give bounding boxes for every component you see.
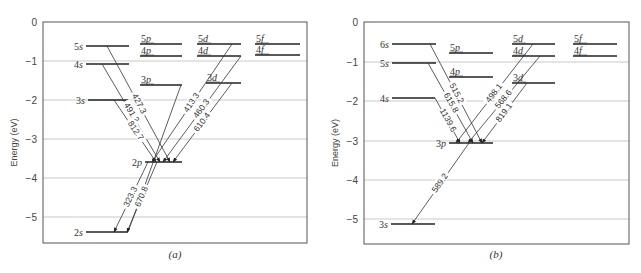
level-label-5f: 5f xyxy=(256,33,265,44)
y-tick-label: 0 xyxy=(31,17,37,28)
y-tick-label: 0 xyxy=(352,17,358,28)
level-label-5s: 5s xyxy=(74,41,83,52)
level-label-4f: 4f xyxy=(256,44,265,55)
level-label-5f: 5f xyxy=(574,33,583,44)
level-label-2s: 2s xyxy=(74,227,83,238)
y-tick-label: −3 xyxy=(347,136,359,147)
y-axis-label: Energy (eV) xyxy=(9,118,19,166)
level-label-3p: 3p xyxy=(436,138,446,149)
level-label-4d: 4d xyxy=(198,45,209,56)
y-tick-label: −1 xyxy=(26,56,38,67)
level-label-4f: 4f xyxy=(574,45,583,56)
y-tick-label: −1 xyxy=(347,57,359,68)
y-tick-label: −5 xyxy=(347,214,359,225)
panel-b: 0−1−2−3−4−5Energy (eV)6s5s4s3s5p4p3p5d4d… xyxy=(330,17,629,262)
y-axis-label: Energy (eV) xyxy=(330,119,340,167)
y-tick-label: −3 xyxy=(26,134,38,145)
level-label-5p: 5p xyxy=(450,42,460,53)
level-label-3d: 3d xyxy=(207,72,218,83)
level-label-3s: 3s xyxy=(379,219,388,230)
level-label-4p: 4p xyxy=(141,45,151,56)
level-label-4s: 4s xyxy=(74,59,83,70)
level-label-5s: 5s xyxy=(380,58,389,69)
energy-level-diagrams: 0−1−2−3−4−5Energy (eV)5s4s3s2s5p4p3p2p5d… xyxy=(0,0,641,273)
y-tick-label: −4 xyxy=(347,175,359,186)
level-label-4s: 4s xyxy=(380,93,389,104)
panel-a: 0−1−2−3−4−5Energy (eV)5s4s3s2s5p4p3p2p5d… xyxy=(9,17,307,262)
y-tick-label: −2 xyxy=(26,95,38,106)
level-label-5d: 5d xyxy=(513,33,524,44)
panel-caption: (b) xyxy=(490,248,503,261)
level-label-6s: 6s xyxy=(380,39,389,50)
y-tick-label: −5 xyxy=(26,212,38,223)
level-label-3p: 3p xyxy=(141,74,151,85)
level-label-5d: 5d xyxy=(198,33,209,44)
panel-caption: (a) xyxy=(169,248,182,261)
level-label-4p: 4p xyxy=(450,66,460,77)
level-label-2p: 2p xyxy=(132,157,142,168)
y-tick-label: −4 xyxy=(26,173,38,184)
y-tick-label: −2 xyxy=(347,96,359,107)
level-label-3s: 3s xyxy=(76,95,85,106)
level-label-5p: 5p xyxy=(141,33,151,44)
level-label-4d: 4d xyxy=(513,45,524,56)
